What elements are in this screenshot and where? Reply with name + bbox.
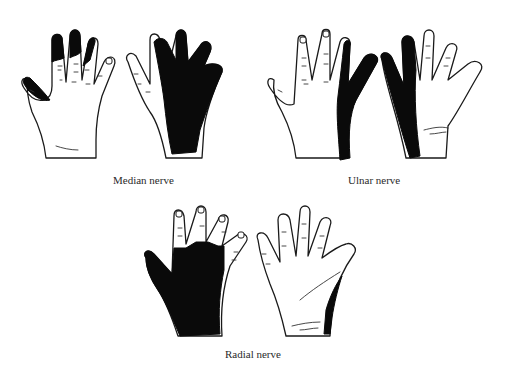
- ulnar-dorsal-shaded-area: [337, 40, 377, 160]
- ulnar-nerve-caption: Ulnar nerve: [348, 174, 400, 186]
- ulnar-palmar-shaded-area: [381, 36, 420, 158]
- median-dorsal-thumb-edge: [23, 77, 50, 100]
- ulnar-dorsal-hand: [268, 30, 378, 161]
- radial-nerve-caption: Radial nerve: [225, 348, 281, 360]
- radial-palmar-hand: [257, 206, 355, 336]
- nerve-distribution-diagram: [0, 0, 507, 374]
- median-dorsal-middle-tip: [70, 30, 81, 58]
- median-dorsal-hand: [22, 30, 115, 158]
- ulnar-palmar-hand: [381, 30, 482, 158]
- median-palmar-hand: [127, 30, 223, 158]
- median-dorsal-index-tip: [52, 34, 64, 62]
- radial-dorsal-hand: [145, 206, 247, 336]
- median-nerve-caption: Median nerve: [113, 174, 174, 186]
